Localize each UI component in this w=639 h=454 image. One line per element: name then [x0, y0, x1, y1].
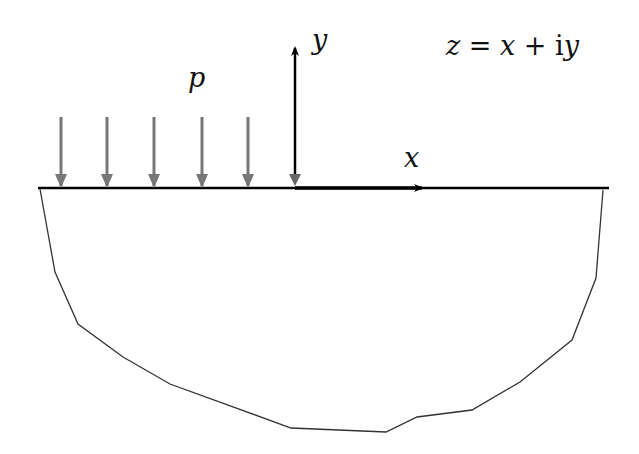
domain-boundary — [40, 189, 603, 432]
load-label: p — [188, 62, 205, 93]
eq-equals: = — [460, 30, 500, 61]
complex-variable-equation: z = x + iy — [446, 30, 579, 61]
eq-plus: + — [515, 30, 555, 61]
x-axis-label: x — [404, 142, 419, 173]
half-plane-diagram: y x p z = x + iy — [0, 0, 639, 454]
eq-lhs: z — [446, 30, 460, 61]
y-axis-bottom-arrowhead — [289, 174, 301, 186]
diagram-graphics — [0, 0, 639, 454]
eq-i: i — [555, 30, 564, 61]
load-arrows — [61, 117, 248, 186]
eq-y: y — [564, 30, 579, 61]
eq-x: x — [500, 30, 515, 61]
y-axis-label: y — [312, 24, 327, 55]
